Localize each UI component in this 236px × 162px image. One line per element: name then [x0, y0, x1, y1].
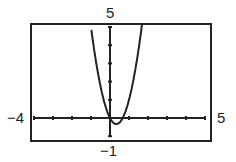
axis-ticks: [34, 27, 205, 136]
parabola-curve: [91, 23, 142, 124]
graph-screen: [0, 0, 236, 162]
viewing-window-frame: [31, 24, 211, 141]
